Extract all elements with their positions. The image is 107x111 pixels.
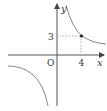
point-x-value-label: 4 <box>79 58 85 68</box>
hyperbola-diagram: y x O 3 4 <box>0 0 107 111</box>
point-y-value-label: 3 <box>48 32 54 42</box>
curve-branch-q3 <box>8 66 48 106</box>
curve-branch-q1 <box>66 5 106 44</box>
point-marker <box>80 34 83 37</box>
graph-canvas: y x O 3 4 <box>0 0 107 111</box>
x-axis-label: x <box>97 57 103 68</box>
origin-label: O <box>47 58 54 68</box>
y-axis-label: y <box>60 3 67 14</box>
